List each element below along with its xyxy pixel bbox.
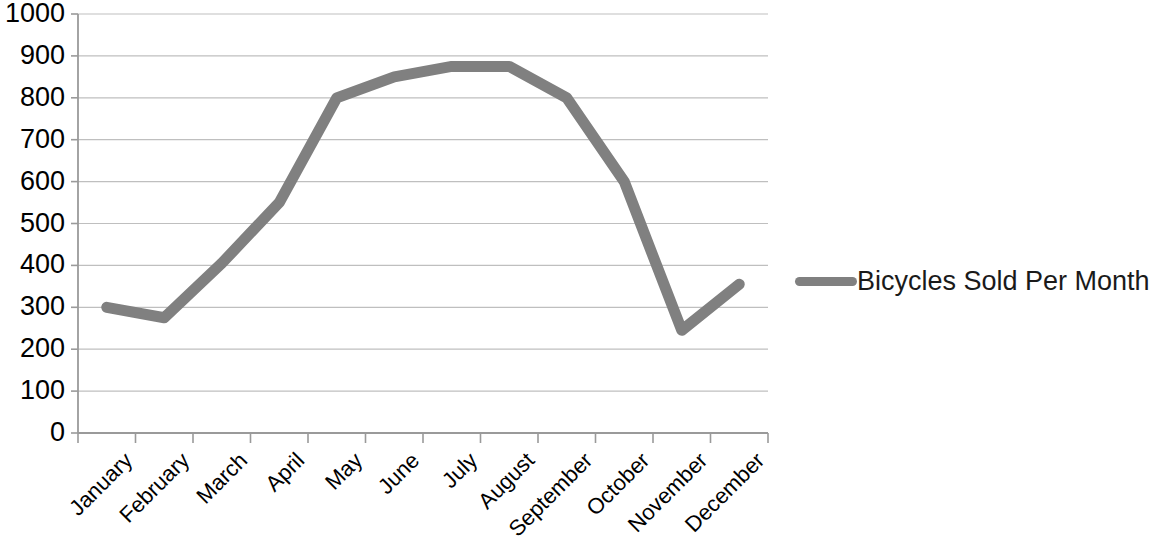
legend-label: Bicycles Sold Per Month: [857, 268, 1150, 295]
series-line: [107, 66, 740, 330]
y-axis-tick-label: 800: [20, 84, 65, 111]
chart-legend: Bicycles Sold Per Month: [795, 264, 1150, 298]
y-axis-tick-label: 700: [20, 126, 65, 153]
y-axis-tick-label: 1000: [5, 0, 65, 27]
y-axis-tick-label: 500: [20, 210, 65, 237]
x-axis: [78, 433, 768, 443]
legend-line-swatch: [795, 277, 857, 286]
y-axis-tick-label: 0: [50, 419, 65, 446]
y-axis-tick-label: 400: [20, 251, 65, 278]
y-axis-tick-label: 100: [20, 377, 65, 404]
y-axis: [71, 14, 78, 433]
y-axis-tick-label: 600: [20, 168, 65, 195]
y-axis-tick-label: 200: [20, 335, 65, 362]
y-axis-tick-label: 300: [20, 293, 65, 320]
data-series: [107, 66, 740, 330]
y-axis-tick-label: 900: [20, 42, 65, 69]
